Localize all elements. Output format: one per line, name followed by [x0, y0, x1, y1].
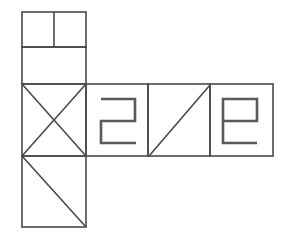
top-half-split-face: [22, 12, 86, 47]
cube-net-diagram: [0, 0, 281, 245]
blank-face-outline: [22, 47, 86, 84]
digit-nine-glyph: [223, 99, 257, 143]
diagonal-face: [148, 84, 210, 156]
digit-nine-face: [210, 84, 273, 156]
digit-two-face: [86, 84, 148, 156]
triangle-face: [22, 156, 86, 227]
blank-face: [22, 47, 86, 84]
triangle-face-diagonal: [22, 156, 86, 227]
diagonal-face-diagonal: [149, 85, 210, 156]
x-cross-face: [22, 84, 86, 156]
figure-canvas: Cube net line drawing Unfolded cube net …: [0, 0, 281, 245]
digit-two-glyph: [101, 99, 136, 143]
